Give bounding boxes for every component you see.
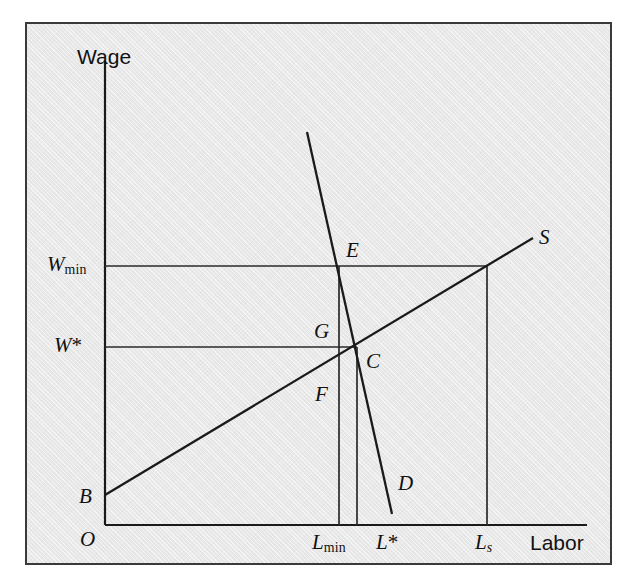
x-tick-lmin: Lmin (312, 532, 346, 555)
diagram-canvas (27, 24, 612, 565)
y-tick-wstar-base: W (54, 333, 72, 357)
y-tick-wstar-asterisk: * (72, 333, 83, 357)
figure-frame: Wage Labor O Wmin W* Lmin L* Ls S D E G … (25, 22, 612, 565)
y-tick-wmin-sub: min (65, 262, 87, 277)
origin-label: O (80, 529, 95, 550)
x-tick-lstar: L* (376, 532, 398, 553)
x-tick-ls: Ls (475, 532, 492, 555)
point-b-label: B (79, 486, 92, 507)
y-tick-wstar: W* (54, 335, 82, 356)
x-tick-lmin-base: L (312, 530, 324, 554)
point-g-label: G (314, 321, 329, 342)
x-tick-lstar-base: L (376, 530, 388, 554)
y-tick-wmin: Wmin (47, 254, 87, 277)
y-axis-label: Wage (77, 46, 131, 67)
demand-curve-label: D (398, 473, 413, 494)
supply-curve-label: S (539, 227, 550, 248)
supply-curve-line (105, 238, 533, 495)
x-tick-lstar-asterisk: * (388, 530, 399, 554)
point-e-label: E (346, 240, 359, 261)
x-axis-label: Labor (530, 532, 584, 553)
x-tick-ls-base: L (475, 530, 487, 554)
point-f-label: F (315, 384, 328, 405)
point-c-label: C (366, 351, 380, 372)
x-tick-ls-sub: s (487, 540, 493, 555)
y-tick-wmin-base: W (47, 252, 65, 276)
x-tick-lmin-sub: min (324, 540, 346, 555)
